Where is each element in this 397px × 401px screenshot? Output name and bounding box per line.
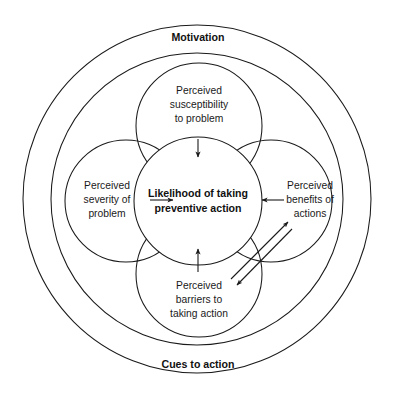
lobe-bottom-line2: barriers to [176, 294, 223, 305]
lobe-top-line2: susceptibility [170, 99, 229, 110]
lobe-left-line3: problem [88, 208, 125, 219]
lobe-top-line1: Perceived [176, 85, 222, 96]
core-line2: preventive action [154, 202, 241, 214]
lobe-right-line1: Perceived [287, 180, 333, 191]
lobe-label-perceived-severity: Perceived severity of problem [84, 180, 131, 219]
diagram-canvas: Motivation Cues to action Perceived susc… [0, 0, 397, 401]
lobe-right-line2: benefits of [286, 194, 334, 205]
lobe-left-line2: severity of [84, 194, 131, 205]
lobe-right-line3: actions [294, 208, 327, 219]
outer-ring-bottom-label: Cues to action [162, 358, 235, 370]
lobe-bottom-line1: Perceived [176, 280, 222, 291]
lobe-bottom-line3: taking action [170, 308, 228, 319]
health-belief-model-diagram: Motivation Cues to action Perceived susc… [0, 0, 397, 401]
lobe-label-perceived-barriers: Perceived barriers to taking action [170, 280, 228, 319]
outer-ring-top-label: Motivation [172, 31, 225, 43]
lobe-left-line1: Perceived [84, 180, 130, 191]
lobe-label-perceived-susceptibility: Perceived susceptibility to problem [170, 85, 229, 124]
core-line1: Likelihood of taking [148, 187, 248, 199]
lobe-top-line3: to problem [175, 113, 224, 124]
